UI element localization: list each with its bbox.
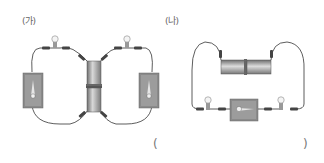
bulb-icon xyxy=(52,36,58,48)
circuit-b xyxy=(192,42,304,121)
battery-icon xyxy=(86,61,102,87)
alligator-clip xyxy=(196,108,204,111)
alligator-clip xyxy=(78,54,86,61)
alligator-clip xyxy=(264,108,272,111)
battery-icon xyxy=(221,59,247,75)
alligator-clip xyxy=(62,47,70,50)
circuit-a xyxy=(23,36,159,124)
bulb-icon xyxy=(278,97,284,110)
alligator-clip xyxy=(290,108,298,111)
wire xyxy=(271,42,304,109)
alligator-clip xyxy=(270,50,273,58)
answer-bracket-open: ( xyxy=(153,137,158,151)
alligator-clip xyxy=(42,47,50,50)
answer-bracket-close: ) xyxy=(303,137,308,151)
alligator-clip xyxy=(114,47,122,50)
circuit-diagrams xyxy=(0,0,324,163)
wire xyxy=(134,48,152,72)
battery-icon xyxy=(247,60,271,74)
alligator-clip xyxy=(134,47,142,50)
wire xyxy=(32,48,50,72)
alligator-clip xyxy=(218,108,226,111)
bulb-icon xyxy=(124,36,130,48)
battery-icon xyxy=(86,86,102,112)
bulb-icon xyxy=(205,97,211,110)
switch-icon xyxy=(230,99,258,121)
switch-icon xyxy=(139,73,159,108)
alligator-clip xyxy=(100,54,108,61)
switch-icon xyxy=(23,73,43,108)
alligator-clip xyxy=(219,50,222,58)
